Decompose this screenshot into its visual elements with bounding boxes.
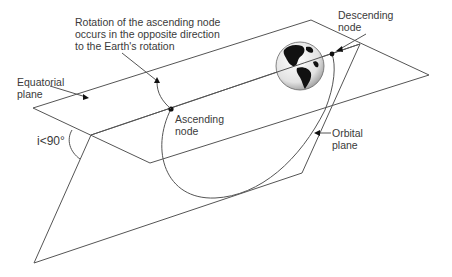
rotation-note-label: Rotation of the ascending node occurs in… <box>75 16 220 52</box>
rotation-arrow <box>157 82 171 109</box>
rotation-note-leader <box>122 53 156 80</box>
descending-arrowhead-icon <box>336 46 343 52</box>
orbit-diagram <box>0 0 452 277</box>
rotation-arrowhead-icon <box>154 77 160 83</box>
inclination-arc <box>69 130 80 159</box>
descending-node-dot <box>330 52 335 57</box>
ascending-node-label: Ascending node <box>175 113 224 137</box>
descending-node-label: Descending node <box>338 9 393 33</box>
equatorial-plane-label: Equatorial plane <box>17 76 64 100</box>
earth-icon <box>276 42 324 90</box>
equatorial-reference-line <box>91 44 360 135</box>
orbital-plane-label: Orbital plane <box>332 127 363 151</box>
orbital-arrowhead-icon <box>314 130 320 136</box>
equatorial-arrowhead-icon <box>83 94 89 100</box>
inclination-label: i<90° <box>37 135 65 147</box>
